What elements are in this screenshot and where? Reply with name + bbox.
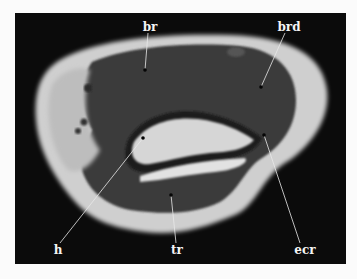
- label-br: br: [143, 21, 158, 33]
- vessel: [75, 128, 81, 134]
- label-tr: tr: [171, 244, 183, 256]
- label-h: h: [54, 244, 63, 256]
- mri-image: [15, 13, 346, 264]
- vessel: [227, 47, 245, 57]
- vessel: [81, 119, 88, 126]
- mri-cross-section: [15, 13, 346, 264]
- label-ecr: ecr: [294, 244, 315, 256]
- label-brd: brd: [277, 21, 300, 33]
- vessel: [84, 84, 92, 92]
